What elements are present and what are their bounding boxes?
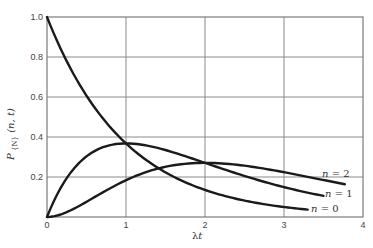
y-axis-ticks: 0.20.40.60.81.0 [30, 12, 43, 182]
x-tick-label: 2 [202, 220, 207, 230]
curves [47, 17, 345, 217]
curve-label: n = 1 [325, 188, 353, 199]
y-tick-label: 0.6 [30, 92, 43, 102]
y-tick-label: 0.2 [30, 172, 43, 182]
curve-labels: n = 0n = 1n = 2 [311, 168, 353, 214]
y-tick-label: 0.8 [30, 52, 43, 62]
y-tick-label: 1.0 [30, 12, 43, 22]
x-axis-label: λt [192, 230, 203, 241]
x-axis-ticks: 01234 [44, 220, 365, 230]
x-tick-label: 3 [281, 220, 286, 230]
x-tick-label: 4 [360, 220, 365, 230]
x-tick-label: 1 [123, 220, 128, 230]
y-axis-label: P {N} (n, t) [5, 108, 19, 161]
poisson-chart: 0.20.40.60.81.0 01234 n = 0n = 1n = 2 λt… [0, 0, 373, 248]
curve-label: n = 2 [322, 168, 350, 179]
x-tick-label: 0 [44, 220, 49, 230]
curve-n0 [47, 17, 308, 210]
curve-label: n = 0 [311, 203, 339, 214]
y-tick-label: 0.4 [30, 132, 43, 142]
grid-lines [47, 17, 363, 217]
